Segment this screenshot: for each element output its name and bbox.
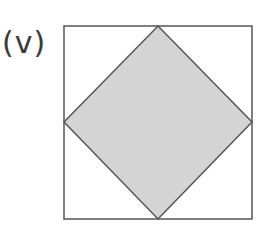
square-diamond-diagram bbox=[0, 0, 259, 240]
